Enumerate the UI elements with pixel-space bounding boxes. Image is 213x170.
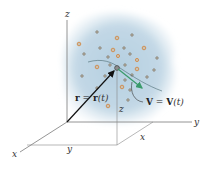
y-axis-label: y (193, 117, 200, 127)
velocity-vector-label: V = V(t) (145, 97, 184, 107)
fluid-kinematics-diagram: z y x z y x r = r(t) V = V(t) (0, 0, 213, 170)
y-coordinate-label: y (66, 144, 73, 154)
position-vector-label: r = r(t) (75, 93, 109, 103)
x-coordinate-label: x (140, 132, 145, 142)
z-coordinate-label: z (118, 104, 124, 114)
x-axis-label: x (12, 149, 17, 159)
x-axis (20, 122, 67, 152)
z-axis-label: z (64, 9, 70, 19)
